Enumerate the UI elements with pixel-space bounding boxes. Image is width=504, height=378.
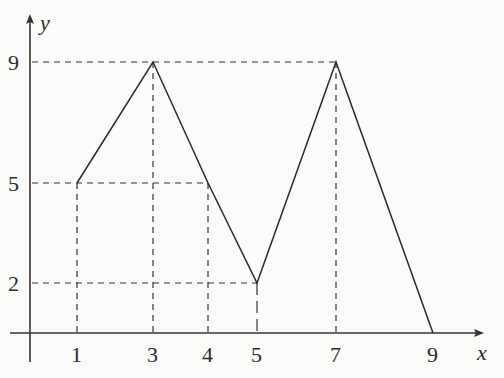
y-tick-9: 9	[8, 50, 19, 75]
x-axis-label: x	[476, 340, 487, 365]
x-tick-7: 7	[330, 342, 341, 367]
y-tick-5: 5	[8, 171, 19, 196]
guide-lines	[32, 62, 336, 333]
x-tick-9: 9	[427, 342, 438, 367]
x-tick-5: 5	[251, 342, 262, 367]
graph-figure: y x 9 5 2 1 3 4 5 7 9	[0, 0, 504, 378]
y-tick-2: 2	[8, 271, 19, 296]
x-tick-3: 3	[147, 342, 158, 367]
x-tick-1: 1	[71, 342, 82, 367]
y-axis-label: y	[38, 10, 50, 35]
function-curve	[77, 62, 433, 333]
x-tick-4: 4	[202, 342, 213, 367]
